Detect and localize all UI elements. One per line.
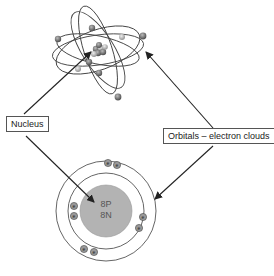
atom-3d-model: [50, 2, 147, 100]
arrows: [24, 52, 213, 202]
protons-count: 8P: [92, 199, 120, 210]
bohr-nucleus-label: 8P 8N: [92, 199, 120, 221]
svg-text:e: e: [93, 249, 96, 255]
neutrons-count: 8N: [92, 210, 120, 221]
orbitals-label: Orbitals – electron clouds: [163, 128, 274, 144]
arrow-orbitals-to-bohr: [155, 146, 213, 199]
svg-text:e: e: [138, 225, 141, 231]
svg-text:e: e: [116, 162, 119, 168]
svg-text:e: e: [73, 213, 76, 219]
svg-text:e: e: [73, 203, 76, 209]
arrow-nucleus-to-3d: [24, 52, 91, 114]
svg-text:e: e: [142, 214, 145, 220]
nucleus-label: Nucleus: [6, 116, 49, 132]
svg-text:e: e: [83, 246, 86, 252]
svg-text:e: e: [107, 160, 110, 166]
nucleus-cluster: [91, 42, 108, 57]
arrow-orbitals-to-3d: [146, 52, 213, 128]
